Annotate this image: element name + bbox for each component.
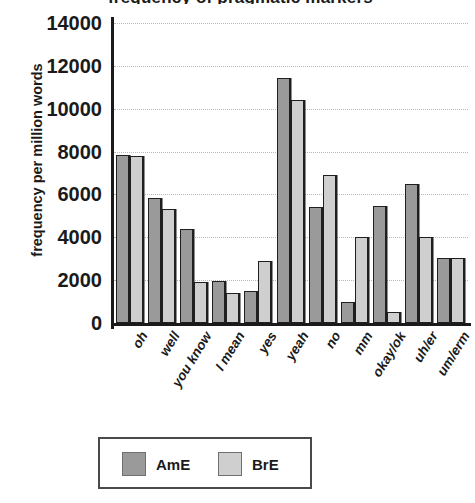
x-axis-tick-label: oh: [129, 329, 150, 351]
bar-bre[interactable]: [258, 261, 271, 323]
bar-bre[interactable]: [130, 156, 143, 323]
bar-bre[interactable]: [323, 175, 336, 323]
y-axis-tick-label: 6000: [0, 184, 102, 204]
x-axis-tick-label: no: [322, 329, 343, 351]
x-axis-tick-label: well: [157, 329, 183, 359]
bar-group: [405, 23, 434, 323]
legend-swatch-ame: [122, 452, 146, 476]
chart-legend: AmE BrE: [98, 437, 312, 489]
x-axis-tick-label: yes: [255, 329, 280, 356]
bar-group: [116, 23, 145, 323]
x-axis-line: [111, 323, 471, 326]
bar-bre[interactable]: [355, 237, 368, 323]
bar-ame[interactable]: [437, 258, 450, 323]
y-axis-tick-label: 0: [0, 313, 102, 333]
legend-label-ame: AmE: [156, 456, 190, 473]
bar-ame[interactable]: [148, 198, 161, 323]
bar-bre[interactable]: [291, 100, 304, 323]
y-axis-tick-label: 10000: [0, 99, 102, 119]
bar-group: [341, 23, 370, 323]
y-axis-tick-label: 14000: [0, 13, 102, 33]
y-axis-tick-label: 4000: [0, 227, 102, 247]
legend-swatch-bre: [218, 452, 242, 476]
bar-group: [180, 23, 209, 323]
x-axis-tick-label: yeah: [283, 329, 312, 363]
legend-item-ame[interactable]: AmE: [122, 452, 190, 476]
y-axis-line: [111, 17, 114, 329]
bar-ame[interactable]: [212, 281, 225, 323]
legend-label-bre: BrE: [252, 456, 279, 473]
bar-bre[interactable]: [194, 282, 207, 323]
y-axis-tick-label: 8000: [0, 142, 102, 162]
bar-ame[interactable]: [309, 207, 322, 323]
y-axis-tick-label: 12000: [0, 56, 102, 76]
bar-group: [437, 23, 466, 323]
bar-bre[interactable]: [387, 312, 400, 323]
bar-bre[interactable]: [419, 237, 432, 323]
bar-group: [148, 23, 177, 323]
bar-ame[interactable]: [180, 229, 193, 323]
legend-item-bre[interactable]: BrE: [218, 452, 279, 476]
plot-area: 02000400060008000100001200014000 ohwelly…: [114, 23, 468, 323]
bar-ame[interactable]: [116, 155, 129, 323]
bar-group: [244, 23, 273, 323]
chart-figure: frequency of pragmatic markers frequency…: [0, 0, 475, 503]
bar-ame[interactable]: [277, 78, 290, 323]
bar-bre[interactable]: [451, 258, 464, 323]
x-axis-tick-label: uh/er: [410, 329, 440, 365]
bar-bre[interactable]: [226, 293, 239, 323]
x-axis-tick-label: I mean: [212, 329, 247, 373]
chart-title: frequency of pragmatic markers: [108, 0, 373, 4]
bar-group: [309, 23, 338, 323]
bar-group: [277, 23, 306, 323]
y-axis-tick-label: 2000: [0, 270, 102, 290]
bar-ame[interactable]: [405, 184, 418, 323]
bar-ame[interactable]: [244, 291, 257, 323]
bar-group: [373, 23, 402, 323]
bar-ame[interactable]: [341, 302, 354, 323]
x-axis-tick-label: mm: [351, 329, 376, 357]
bar-bre[interactable]: [162, 209, 175, 323]
bar-group: [212, 23, 241, 323]
bar-ame[interactable]: [373, 206, 386, 323]
